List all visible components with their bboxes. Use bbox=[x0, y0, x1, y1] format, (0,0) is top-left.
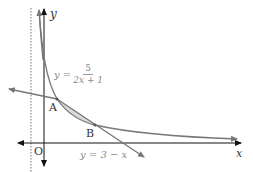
curve-equation-lhs: y = bbox=[54, 70, 71, 80]
line-equation-label: y = 3 − x bbox=[80, 150, 127, 160]
point-b-label: B bbox=[86, 128, 94, 139]
x-axis-label: x bbox=[236, 148, 242, 159]
curve-denominator: 2x + 1 bbox=[73, 75, 103, 86]
curve-equation-label: y = 5 2x + 1 bbox=[54, 64, 103, 86]
curve-numerator: 5 bbox=[83, 64, 93, 75]
origin-label: O bbox=[34, 146, 43, 157]
y-axis-label: y bbox=[50, 8, 57, 20]
curve-equation-fraction: 5 2x + 1 bbox=[73, 64, 103, 86]
curve-reciprocal-top bbox=[39, 10, 43, 60]
point-a-label: A bbox=[49, 102, 57, 113]
line-3-minus-x-left bbox=[9, 89, 57, 99]
